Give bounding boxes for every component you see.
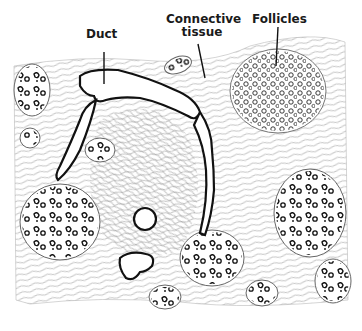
vessel (134, 208, 156, 230)
label-connective-line2: tissue (166, 26, 238, 39)
follicle-cluster (232, 51, 324, 131)
label-connective-tissue: Connective tissue (166, 13, 238, 39)
gland-lobule (182, 232, 242, 284)
histology-diagram: Duct Connective tissue Follicles (0, 0, 362, 331)
gland-lobule (276, 171, 344, 255)
label-follicles: Follicles (252, 13, 307, 26)
label-duct: Duct (86, 28, 117, 41)
tissue-illustration (0, 0, 362, 331)
gland-lobule (22, 186, 98, 258)
